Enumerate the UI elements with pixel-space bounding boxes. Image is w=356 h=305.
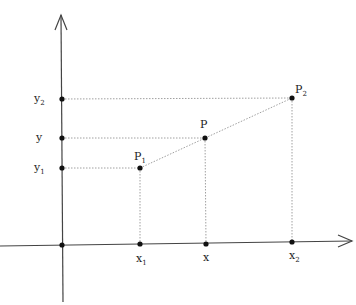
label-x: x (203, 251, 210, 264)
point-p1 (137, 165, 142, 170)
y-axis (61, 15, 63, 302)
point-x2 (289, 239, 294, 244)
segment-p1-p2 (140, 98, 292, 168)
labels: P1 P P2 y2 y y1 x1 x x2 (33, 83, 307, 267)
guide-lines (62, 98, 292, 244)
label-p2: P2 (295, 83, 307, 98)
point-p2 (289, 95, 294, 100)
point-origin (59, 242, 64, 247)
label-p: P (200, 118, 208, 131)
guide-x (205, 138, 206, 244)
coordinate-diagram: P1 P P2 y2 y y1 x1 x x2 (0, 0, 356, 305)
label-x1: x1 (136, 252, 147, 267)
label-y1: y1 (33, 161, 45, 176)
point-p (202, 135, 207, 140)
label-y2: y2 (33, 92, 45, 107)
guide-y2 (62, 98, 292, 99)
diagram-svg: P1 P P2 y2 y y1 x1 x x2 (0, 0, 356, 305)
points (59, 95, 294, 247)
label-y: y (35, 131, 43, 144)
point-x (203, 241, 208, 246)
point-y2 (59, 96, 64, 101)
point-y (59, 135, 64, 140)
label-p1: P1 (134, 150, 146, 165)
point-x1 (137, 241, 142, 246)
point-y1 (59, 165, 64, 170)
label-x2: x2 (289, 249, 300, 264)
x-axis (0, 241, 352, 246)
